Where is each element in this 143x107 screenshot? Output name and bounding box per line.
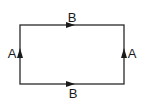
left-edge-arrow-up-icon (17, 48, 23, 58)
loop-rectangle (20, 25, 124, 84)
top-edge-label: B (68, 11, 77, 24)
left-edge-label: A (8, 47, 17, 60)
bottom-edge-label: B (69, 87, 78, 100)
right-edge-arrow-up-icon (121, 48, 127, 58)
right-edge-label: A (128, 47, 137, 60)
